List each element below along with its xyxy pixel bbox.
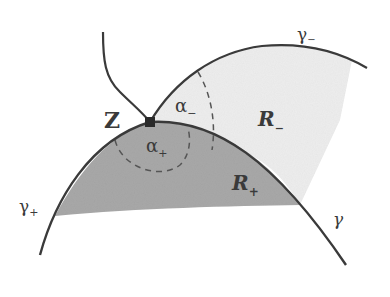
diagram-canvas: Z α− α+ R− R+ γ− γ+ γ (0, 0, 390, 297)
point-z-marker (145, 117, 155, 127)
point-z-label: Z (104, 107, 120, 133)
curve-gamma-label: γ (333, 209, 344, 229)
curve-gamma-minus-label: γ− (297, 24, 316, 45)
curve-gamma-plus-label: γ+ (19, 196, 38, 219)
